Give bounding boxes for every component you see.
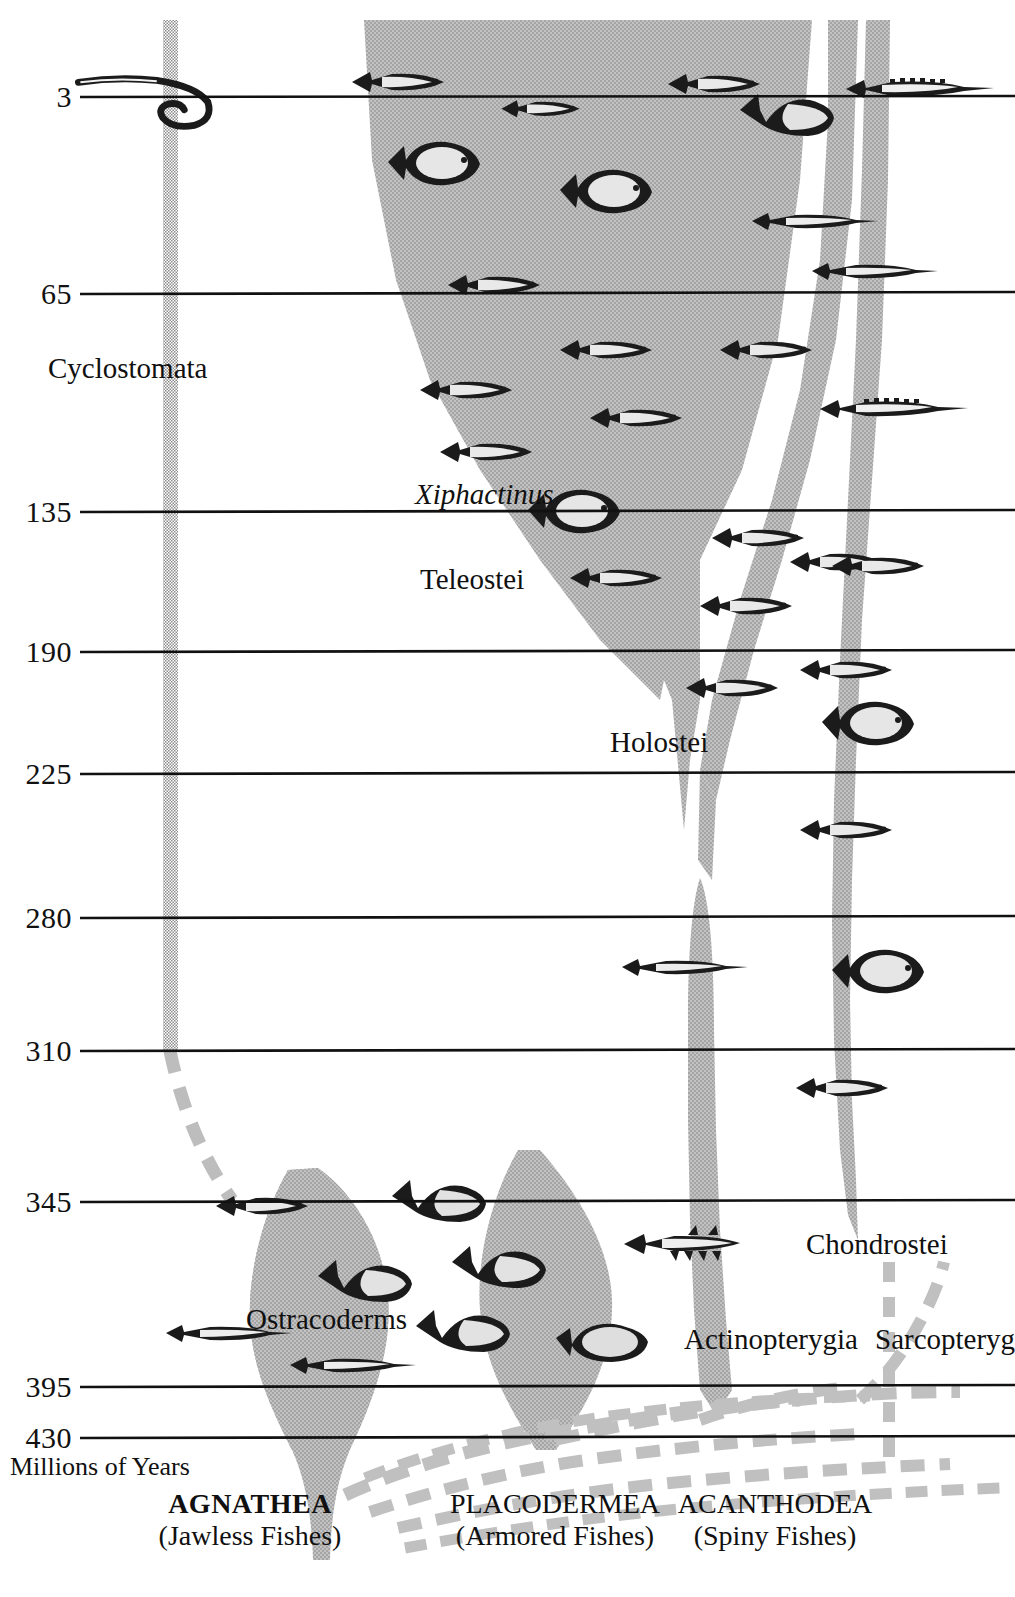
bottom-label-agnathea: AGNATHEA (Jawless Fishes) [140, 1488, 360, 1552]
bottom-label-acanthodea-title: ACANTHODEA [678, 1488, 872, 1519]
rule-280 [80, 916, 1015, 918]
label-actinopterygia: Actinopterygia [684, 1323, 858, 1356]
bottom-label-acanthodea-subtitle: (Spiny Fishes) [660, 1520, 890, 1552]
tick-label-310: 310 [8, 1034, 72, 1068]
fish-evolution-chart: 3 65 135 190 225 280 310 345 395 430 Mil… [0, 0, 1015, 1597]
tick-label-345: 345 [8, 1185, 72, 1219]
tick-label-135: 135 [8, 495, 72, 529]
time-rules-layer [0, 0, 1015, 1597]
axis-caption-millions-of-years: Millions of Years [10, 1452, 190, 1482]
tick-label-430: 430 [8, 1421, 72, 1455]
label-holostei: Holostei [610, 726, 708, 759]
tick-label-3: 3 [8, 80, 72, 114]
rule-310 [80, 1049, 1015, 1051]
label-ostracoderms: Ostracoderms [246, 1303, 407, 1336]
bottom-label-placodermea: PLACODERMEA (Armored Fishes) [440, 1488, 670, 1552]
label-cyclostomata: Cyclostomata [48, 352, 207, 385]
bottom-label-placodermea-subtitle: (Armored Fishes) [440, 1520, 670, 1552]
label-sarcopterygia: Sarcopteryg [875, 1323, 1015, 1356]
bottom-label-placodermea-title: PLACODERMEA [450, 1488, 660, 1519]
rule-225 [80, 772, 1015, 774]
tick-label-190: 190 [8, 635, 72, 669]
tick-label-395: 395 [8, 1370, 72, 1404]
rule-65 [80, 292, 1015, 294]
bottom-label-agnathea-title: AGNATHEA [168, 1488, 332, 1519]
label-teleostei: Teleostei [420, 563, 524, 596]
tick-label-280: 280 [8, 901, 72, 935]
tick-label-65: 65 [8, 277, 72, 311]
rule-430 [80, 1436, 1015, 1438]
tick-label-225: 225 [8, 757, 72, 791]
bottom-label-acanthodea: ACANTHODEA (Spiny Fishes) [660, 1488, 890, 1552]
rule-345 [80, 1200, 1015, 1202]
bottom-label-agnathea-subtitle: (Jawless Fishes) [140, 1520, 360, 1552]
rule-190 [80, 650, 1015, 652]
rule-395 [80, 1385, 1015, 1387]
rule-3 [80, 96, 1015, 97]
label-xiphactinus: Xiphactinus [415, 478, 554, 511]
label-chondrostei: Chondrostei [806, 1228, 948, 1261]
